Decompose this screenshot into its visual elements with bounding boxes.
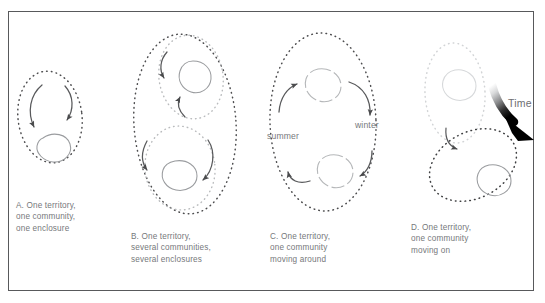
- panel-d-territory-boundary-past: [422, 41, 487, 144]
- figure-root: A. One territory, one community, one enc…: [0, 0, 545, 303]
- winter-label: winter: [355, 120, 379, 130]
- time-label: Time: [508, 97, 532, 109]
- panel-b-arrow-upper-from-below: [178, 97, 185, 117]
- time-arrow-head: [505, 117, 534, 141]
- panel-a-arrow-left: [30, 85, 42, 127]
- panel-b-graphic: [128, 31, 242, 218]
- panel-a-graphic: [13, 67, 88, 166]
- panel-c-caption: C. One territory, one community moving a…: [270, 231, 330, 265]
- panel-c-arrow-into-summer: [279, 84, 297, 112]
- panel-a-caption: A. One territory, one community, one enc…: [16, 200, 76, 234]
- panel-a-territory-boundary: [13, 67, 88, 166]
- panel-a-arrow-right: [65, 86, 72, 120]
- panel-b-arrow-lower-in-right: [203, 140, 213, 180]
- panel-d-community-circle-past: [443, 70, 476, 101]
- panel-a-enclosure-circle: [37, 134, 71, 162]
- panel-b-enclosure-boundary-lower: [141, 123, 219, 214]
- panel-b-community-circle-upper: [179, 61, 211, 93]
- panel-c-arrow-to-winter: [349, 82, 370, 115]
- panel-d-arrow-moving-on: [446, 128, 457, 149]
- panel-b-arrow-lower-in-left: [143, 141, 148, 170]
- panel-b-enclosure-boundary-upper: [153, 31, 229, 124]
- summer-label: summer: [267, 131, 299, 141]
- panel-d-graphic: [417, 41, 534, 215]
- panel-d-caption: D. One territory, one community moving o…: [411, 222, 471, 256]
- panel-c-arrow-into-winter: [360, 151, 372, 176]
- panel-c-enclosure-circle-lower: [317, 155, 353, 188]
- panel-b-community-circle-lower: [162, 161, 197, 191]
- panel-c-arrow-to-summer: [288, 172, 310, 182]
- panel-b-caption: B. One territory, several communities, s…: [131, 231, 211, 265]
- panel-d-community-circle-present: [477, 165, 511, 196]
- panel-c-enclosure-circle-upper: [305, 69, 341, 102]
